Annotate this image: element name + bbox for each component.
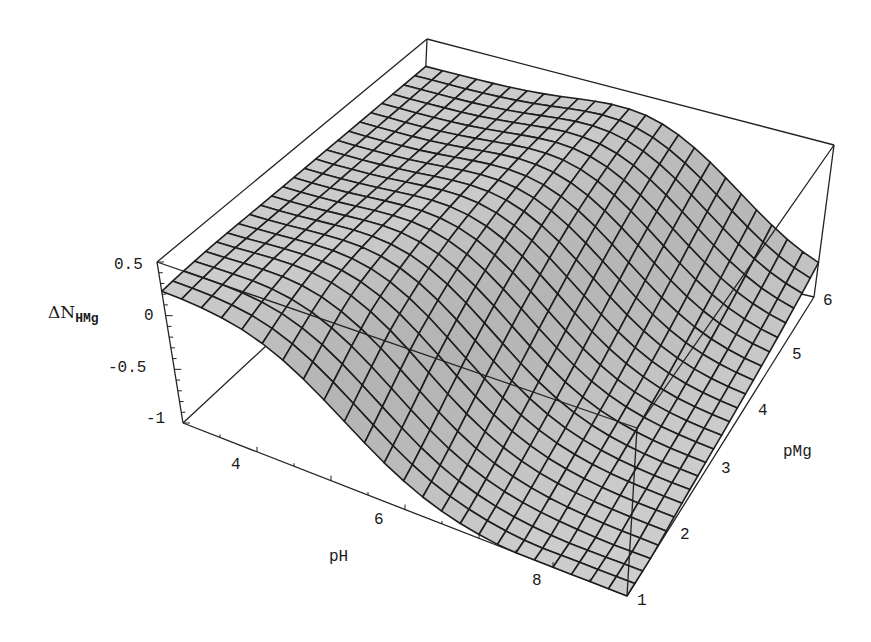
surface-plot	[0, 0, 871, 642]
z-tick-label: -1	[146, 410, 165, 428]
y-tick-label: 3	[721, 460, 731, 478]
z-tick-label: 0	[144, 307, 154, 325]
y-axis-label: pMg	[783, 443, 812, 461]
y-tick-label: 5	[792, 346, 802, 364]
x-tick-label: 4	[231, 456, 241, 474]
z-tick-label: 0.5	[114, 256, 143, 274]
x-axis-label: pH	[329, 548, 348, 566]
y-tick-label: 1	[637, 592, 647, 610]
z-axis-label-main: ΔN	[48, 302, 75, 322]
y-tick-label: 4	[758, 402, 768, 420]
z-tick-label: -0.5	[108, 359, 146, 377]
y-tick-label: 2	[680, 526, 690, 544]
surface-mesh	[162, 66, 819, 596]
x-tick-label: 8	[532, 572, 542, 590]
z-axis-label: ΔNHMg	[48, 302, 99, 326]
z-axis-label-sub: HMg	[75, 311, 98, 326]
x-tick-label: 6	[374, 511, 384, 529]
y-tick-label: 6	[823, 292, 833, 310]
